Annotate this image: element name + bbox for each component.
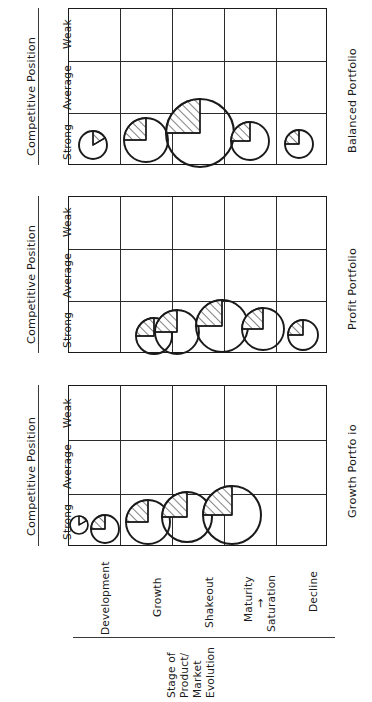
y-tick-weak: Weak	[62, 207, 73, 237]
y-tick-average: Average	[62, 65, 73, 110]
y-tick-average: Average	[62, 444, 73, 489]
bubble-marker	[91, 515, 119, 543]
bubble-layer-profit	[67, 195, 326, 352]
x-tick-shakeout: Shakeout	[204, 577, 215, 628]
bubble-layer-growth	[67, 384, 326, 545]
portfolio-matrix-figure: Competitive Position Strong Average Weak…	[0, 0, 372, 702]
bubble-marker	[285, 130, 313, 158]
y-tick-strong: Strong	[62, 124, 73, 160]
panel-profit-portfolio	[68, 196, 327, 353]
bubble-marker	[70, 516, 88, 534]
y-tick-average: Average	[62, 253, 73, 298]
competitive-position-title: Competitive Position	[26, 417, 37, 536]
stage-axis-line	[73, 637, 335, 638]
x-tick-saturation: Saturation	[266, 575, 277, 632]
x-tick-development: Development	[100, 561, 111, 635]
competitive-position-axis-line	[38, 196, 39, 353]
bubble-marker	[166, 99, 234, 167]
bubble-marker	[124, 118, 168, 162]
bubble-marker	[79, 131, 107, 159]
panel-balanced-portfolio	[68, 8, 327, 165]
bubble-marker	[288, 320, 318, 350]
y-tick-weak: Weak	[62, 19, 73, 49]
bubble-marker	[155, 310, 199, 354]
bubble-marker	[242, 308, 284, 350]
stage-axis-title: Stage of Product/ Market Evolution	[165, 647, 217, 698]
panel-label-balanced: Balanced Portfolio	[347, 48, 358, 153]
competitive-position-axis-line	[38, 385, 39, 546]
panel-growth-portfolio	[68, 385, 327, 546]
competitive-position-title: Competitive Position	[26, 225, 37, 344]
bubble-marker	[162, 492, 212, 542]
x-tick-decline: Decline	[308, 571, 319, 612]
y-tick-strong: Strong	[62, 312, 73, 348]
panel-label-profit: Profit Portfolio	[347, 248, 358, 330]
competitive-position-axis-line	[38, 8, 39, 165]
bubble-layer-balanced	[67, 7, 326, 164]
y-tick-strong: Strong	[62, 504, 73, 540]
x-tick-growth: Growth	[152, 577, 163, 617]
panel-label-growth: Growth Portfo io	[347, 424, 358, 518]
x-tick-maturity: Maturity	[243, 576, 254, 622]
bubble-marker	[231, 122, 269, 160]
competitive-position-title: Competitive Position	[26, 37, 37, 156]
bubble-marker	[196, 300, 248, 352]
bubble-marker	[203, 486, 261, 544]
y-tick-weak: Weak	[62, 398, 73, 428]
